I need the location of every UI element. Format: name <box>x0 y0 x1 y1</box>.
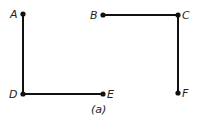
point-f <box>175 90 180 95</box>
diagram-canvas: A B C D E F (a) <box>0 0 202 121</box>
figure-caption: (a) <box>91 103 106 116</box>
point-a <box>20 11 25 16</box>
label-d: D <box>9 88 17 101</box>
label-c: C <box>182 9 190 22</box>
point-e <box>100 91 105 96</box>
point-d <box>20 91 25 96</box>
point-c <box>175 12 180 17</box>
point-b <box>100 12 105 17</box>
label-a: A <box>9 8 18 21</box>
label-b: B <box>90 9 98 22</box>
label-f: F <box>182 87 189 100</box>
label-e: E <box>107 88 114 101</box>
